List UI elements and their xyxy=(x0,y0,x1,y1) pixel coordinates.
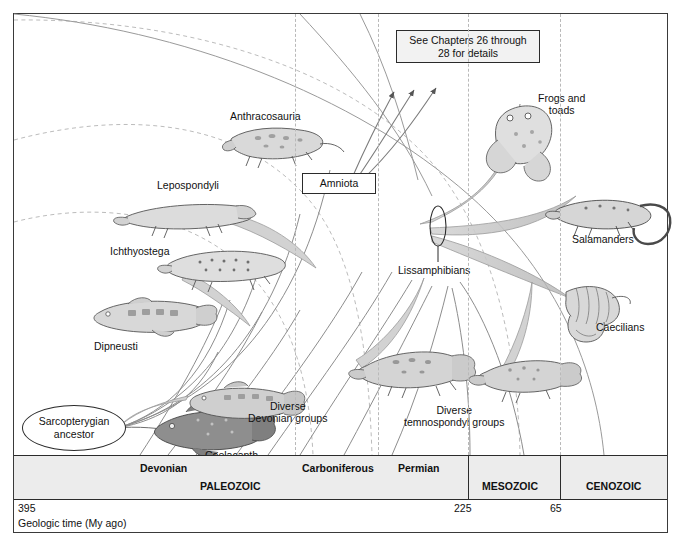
taxon-label-lepospondyli: Lepospondyli xyxy=(157,179,219,191)
era-label-cenozoic: CENOZOIC xyxy=(586,480,641,492)
tick-label-65: 65 xyxy=(550,502,562,514)
taxon-label-caecilians: Caecilians xyxy=(596,321,644,333)
period-divider-mesozoic-cenozoic xyxy=(560,14,561,455)
era-label-mesozoic: MESOZOIC xyxy=(482,480,538,492)
amniota-box: Amniota xyxy=(302,173,376,194)
period-label-carboniferous: Carboniferous xyxy=(302,462,374,474)
amniota-label: Amniota xyxy=(320,177,359,189)
taxon-label-salamanders: Salamanders xyxy=(572,233,634,245)
era-divider-cenozoic xyxy=(560,456,561,499)
era-divider-mesozoic xyxy=(468,456,469,499)
taxon-label-diverse-temnospondyl: Diverse temnospondyl groups xyxy=(404,404,504,429)
figure-canvas: See Chapters 26 through 28 for details A… xyxy=(0,0,683,546)
geologic-timescale: Devonian Carboniferous Permian PALEOZOIC… xyxy=(14,455,667,500)
period-label-devonian: Devonian xyxy=(140,462,187,474)
sarcopterygian-ancestor-oval: Sarcopterygian ancestor xyxy=(22,405,126,451)
taxon-label-dipneusti: Dipneusti xyxy=(94,340,138,352)
tick-label-395: 395 xyxy=(18,502,36,514)
taxon-label-diverse-devonian: Diverse Devonian groups xyxy=(248,400,327,425)
era-label-paleozoic: PALEOZOIC xyxy=(200,480,260,492)
period-divider-carboniferous-permian xyxy=(378,14,379,455)
taxon-label-frogs-and-toads: Frogs and toads xyxy=(538,92,585,117)
taxon-label-lissamphibians: Lissamphibians xyxy=(398,264,470,276)
period-divider-permian-mesozoic xyxy=(468,14,469,455)
taxon-label-anthracosauria: Anthracosauria xyxy=(230,110,301,122)
timescale-axis-row: 395 225 65 Geologic time (My ago) xyxy=(14,500,667,532)
timescale-axis-caption: Geologic time (My ago) xyxy=(18,517,127,529)
tick-label-225: 225 xyxy=(454,502,472,514)
taxon-label-ichthyostega: Ichthyostega xyxy=(110,245,170,257)
period-divider-devonian-carboniferous xyxy=(295,14,296,455)
period-label-permian: Permian xyxy=(398,462,439,474)
sarcopterygian-ancestor-label: Sarcopterygian ancestor xyxy=(39,415,110,441)
